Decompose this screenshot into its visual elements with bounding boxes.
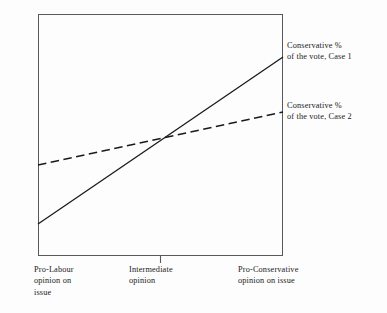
series-label-case-2-line-2: of the vote, Case 2	[287, 111, 352, 122]
x-axis-label-pro-labour-line-2: opinion on	[34, 275, 74, 286]
x-axis-label-pro-conservative-line-2: opinion on issue	[238, 275, 298, 286]
series-label-case-2-line-1: Conservative %	[287, 100, 352, 111]
x-axis-label-pro-labour-line-3: issue	[34, 287, 74, 298]
chart-figure: Conservative % of the vote, Case 1 Conse…	[0, 0, 387, 313]
x-axis-label-pro-labour: Pro-Labour opinion on issue	[34, 264, 74, 298]
x-axis-label-intermediate-line-2: opinion	[129, 275, 173, 286]
series-label-case-2: Conservative % of the vote, Case 2	[287, 100, 352, 122]
x-axis-label-intermediate: Intermediate opinion	[129, 264, 173, 287]
x-axis-label-pro-conservative-line-1: Pro-Conservative	[238, 264, 298, 275]
series-label-case-1-line-2: of the vote, Case 1	[287, 51, 352, 62]
x-axis-label-intermediate-line-1: Intermediate	[129, 264, 173, 275]
x-axis-label-pro-labour-line-1: Pro-Labour	[34, 264, 74, 275]
series-label-case-1: Conservative % of the vote, Case 1	[287, 40, 352, 62]
x-axis-label-pro-conservative: Pro-Conservative opinion on issue	[238, 264, 298, 287]
plot-frame	[38, 14, 283, 256]
series-label-case-1-line-1: Conservative %	[287, 40, 352, 51]
